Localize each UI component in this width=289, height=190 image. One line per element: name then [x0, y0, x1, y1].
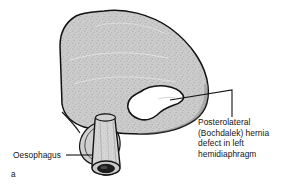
hernia-label-line-1: Posterolateral: [198, 117, 269, 128]
anatomical-diagram: [0, 0, 289, 190]
hernia-label-line-4: hemidiaphragm: [198, 149, 269, 160]
lumen-highlight: [101, 166, 108, 169]
oesophagus-label: Oesophagus: [13, 150, 61, 160]
hernia-label-line-2: (Bochdalek) hernia: [198, 128, 269, 139]
hernia-label-line-3: defect in left: [198, 138, 269, 149]
oesophagus-tube: [92, 114, 120, 175]
figure-caption-letter: a: [11, 170, 16, 179]
figure-container: Posterolateral (Bochdalek) hernia defect…: [0, 0, 289, 190]
posterolateral-bochdalek-hernia-label: Posterolateral (Bochdalek) hernia defect…: [198, 117, 269, 159]
tube-top-rim: [96, 114, 116, 121]
